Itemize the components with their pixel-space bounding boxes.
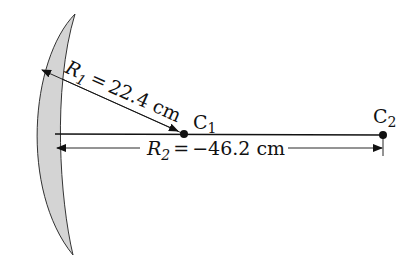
c1-label: C1 xyxy=(193,111,216,136)
c2-label: C2 xyxy=(373,105,396,130)
optical-axis xyxy=(55,134,383,135)
r1-label: R1=22.4 cm xyxy=(60,55,185,130)
lens-diagram: R1=22.4 cm C1 C2 R2=−46.2 cm xyxy=(0,0,404,269)
c2-point xyxy=(379,131,387,139)
svg-text:R1=22.4 cm: R1=22.4 cm xyxy=(60,55,185,130)
r2-label: R2=−46.2 cm xyxy=(146,137,285,163)
